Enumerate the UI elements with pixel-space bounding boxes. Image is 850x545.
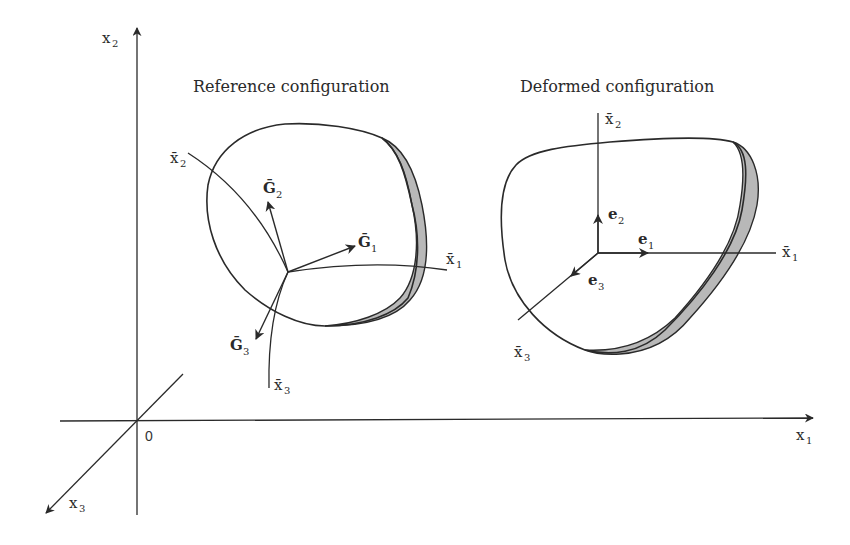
svg-text:x̄: x̄ [274,376,283,394]
reference-title: Reference configuration [193,77,390,96]
svg-text:e: e [638,230,648,248]
svg-text:e: e [608,205,618,223]
reference-body-outline [207,124,418,326]
svg-text:2: 2 [112,38,118,49]
e2-label: e 2 [608,205,624,226]
svg-text:1: 1 [371,243,377,254]
svg-text:2: 2 [276,189,282,200]
reference-body-shading [325,138,426,326]
ref-x3-curve [269,272,288,388]
svg-text:3: 3 [79,503,85,514]
deformed-body-outline [501,138,746,353]
def-x1-label: x̄ 1 [782,243,798,263]
svg-text:x̄: x̄ [605,110,614,128]
svg-text:1: 1 [792,252,798,263]
svg-text:x: x [102,29,111,47]
ref-x2-label: x̄ 2 [170,149,186,169]
svg-text:x̄: x̄ [170,149,179,167]
deformed-body [501,138,758,354]
x1-axis-label: x 1 [796,426,812,446]
svg-text:1: 1 [806,435,812,446]
svg-text:3: 3 [524,352,530,363]
svg-text:3: 3 [243,346,249,357]
deformed-unit-vectors [571,215,648,276]
svg-text:3: 3 [598,281,604,292]
G3-label: Ḡ 3 [230,335,249,357]
e1-label: e 1 [638,230,654,251]
svg-text:x: x [796,426,805,444]
svg-text:1: 1 [456,259,462,270]
svg-text:Ḡ: Ḡ [263,178,276,197]
x1-axis [60,418,813,421]
svg-text:x̄: x̄ [446,250,455,268]
svg-text:x̄: x̄ [514,343,523,361]
G2-label: Ḡ 2 [263,178,282,200]
x3-axis-label: x 3 [69,494,85,514]
svg-text:x̄: x̄ [782,243,791,261]
G1-label: Ḡ 1 [358,232,377,254]
ref-x1-label: x̄ 1 [446,250,462,270]
svg-text:x: x [69,494,78,512]
deformed-title: Deformed configuration [520,77,714,96]
svg-text:3: 3 [284,385,290,396]
def-x3-label: x̄ 3 [514,343,530,363]
x2-axis-label: x 2 [102,29,118,49]
ref-x3-label: x̄ 3 [274,376,290,396]
reference-body [207,124,427,326]
G2-vector [268,202,288,272]
configuration-diagram: x 2 x 1 x 3 0 Reference configuration x̄… [0,0,850,545]
svg-text:Ḡ: Ḡ [230,335,243,354]
origin-label: 0 [145,428,153,444]
ref-x2-curve [188,153,288,272]
svg-text:Ḡ: Ḡ [358,232,371,251]
def-x2-label: x̄ 2 [605,110,621,130]
svg-text:2: 2 [615,119,621,130]
svg-text:2: 2 [180,158,186,169]
svg-text:e: e [588,271,598,289]
svg-text:2: 2 [618,215,624,226]
e3-label: e 3 [588,271,604,292]
global-axes [46,28,813,515]
reference-base-vectors [256,202,355,339]
svg-text:1: 1 [648,240,654,251]
x3-axis [46,374,183,513]
